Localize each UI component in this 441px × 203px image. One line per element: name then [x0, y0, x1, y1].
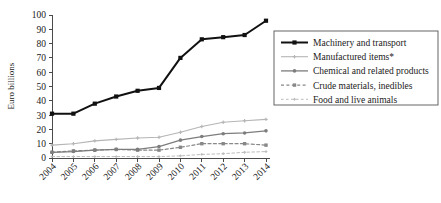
data-point: [72, 142, 75, 145]
series-1: [50, 118, 267, 147]
y-axis-title-group: Euro billions: [6, 62, 16, 109]
x-tick-label: 2006: [80, 161, 101, 182]
data-point: [179, 138, 183, 142]
data-point: [179, 146, 182, 149]
data-point: [200, 142, 203, 145]
x-tick-label: 2007: [102, 161, 123, 182]
data-point: [264, 129, 268, 133]
data-point: [179, 154, 182, 157]
y-tick-label: 100: [32, 10, 47, 20]
data-point: [222, 121, 225, 124]
data-point: [115, 138, 118, 141]
data-point: [243, 119, 246, 122]
x-tick-label: 2004: [37, 161, 58, 182]
data-point: [243, 131, 247, 135]
data-point: [200, 135, 204, 139]
legend-marker: [292, 40, 296, 44]
legend-label: Crude materials, inedibles: [313, 81, 413, 91]
data-point: [243, 151, 246, 154]
data-point: [157, 145, 161, 149]
legend-marker: [293, 83, 296, 86]
data-point: [136, 148, 140, 152]
data-point: [157, 136, 160, 139]
data-point: [243, 142, 246, 145]
y-tick-label: 90: [37, 25, 47, 35]
x-tick-label: 2013: [230, 161, 251, 182]
y-tick-label: 30: [37, 111, 47, 121]
line-chart: Euro billions 0102030405060708090100 200…: [0, 0, 441, 203]
data-point: [71, 112, 75, 116]
chart-canvas: Euro billions 0102030405060708090100 200…: [0, 0, 441, 203]
data-point: [72, 150, 76, 154]
legend-marker: [293, 69, 297, 73]
data-point: [50, 112, 54, 116]
data-point: [221, 35, 225, 39]
data-point: [93, 139, 96, 142]
x-tick-label: 2010: [166, 161, 187, 182]
x-tick-label: 2009: [144, 161, 165, 182]
data-point: [157, 148, 160, 151]
data-point: [93, 102, 97, 106]
data-point: [243, 33, 247, 37]
data-point: [222, 142, 225, 145]
x-tick-label: 2005: [59, 161, 80, 182]
series-line: [52, 119, 266, 145]
x-tick-label: 2014: [251, 161, 272, 182]
legend-label: Manufactured items*: [313, 52, 394, 62]
data-point: [114, 148, 118, 152]
y-tick-label: 80: [37, 39, 47, 49]
y-tick-label: 0: [41, 153, 46, 163]
data-point: [264, 118, 267, 121]
series-layer: [50, 19, 268, 158]
legend-label: Food and live animals: [313, 95, 397, 105]
y-tick-label: 70: [37, 53, 47, 63]
data-point: [136, 89, 140, 93]
data-point: [264, 143, 267, 146]
y-tick-label: 10: [37, 139, 47, 149]
data-point: [178, 56, 182, 60]
chart-legend: Machinery and transportManufactured item…: [274, 31, 438, 105]
data-point: [200, 153, 203, 156]
y-tick-label: 60: [37, 68, 47, 78]
data-point: [114, 94, 118, 98]
data-point: [200, 37, 204, 41]
x-tick-label: 2008: [123, 161, 144, 182]
y-axis-title: Euro billions: [6, 62, 16, 109]
data-point: [221, 132, 225, 136]
legend-label: Chemical and related products: [313, 66, 429, 76]
y-tick-label: 20: [37, 125, 47, 135]
data-point: [179, 131, 182, 134]
y-axis: 0102030405060708090100: [32, 10, 52, 163]
data-point: [157, 86, 161, 90]
data-point: [265, 150, 268, 153]
data-point: [200, 125, 203, 128]
x-axis: 2004200520062007200820092010201120122013…: [37, 158, 272, 182]
x-tick-label: 2012: [209, 161, 230, 182]
x-tick-label: 2011: [187, 161, 207, 181]
data-point: [264, 19, 268, 23]
y-tick-label: 40: [37, 96, 47, 106]
y-tick-label: 50: [37, 82, 47, 92]
data-point: [136, 136, 139, 139]
series-0: [50, 19, 268, 116]
data-point: [93, 148, 97, 152]
series-line: [52, 21, 266, 114]
data-point: [222, 152, 225, 155]
legend-label: Machinery and transport: [313, 38, 407, 48]
data-point: [50, 150, 54, 154]
